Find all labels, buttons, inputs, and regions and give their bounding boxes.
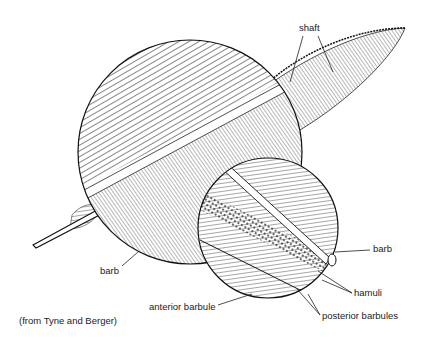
label-shaft: shaft xyxy=(299,23,320,33)
label-hamuli: hamuli xyxy=(354,288,382,298)
label-posterior-barbules: posterior barbules xyxy=(322,311,398,321)
source-credit: (from Tyne and Berger) xyxy=(19,316,117,326)
label-barb-left: barb xyxy=(100,266,119,276)
label-barb-right: barb xyxy=(373,244,392,254)
label-anterior-barbule: anterior barbule xyxy=(149,302,216,312)
